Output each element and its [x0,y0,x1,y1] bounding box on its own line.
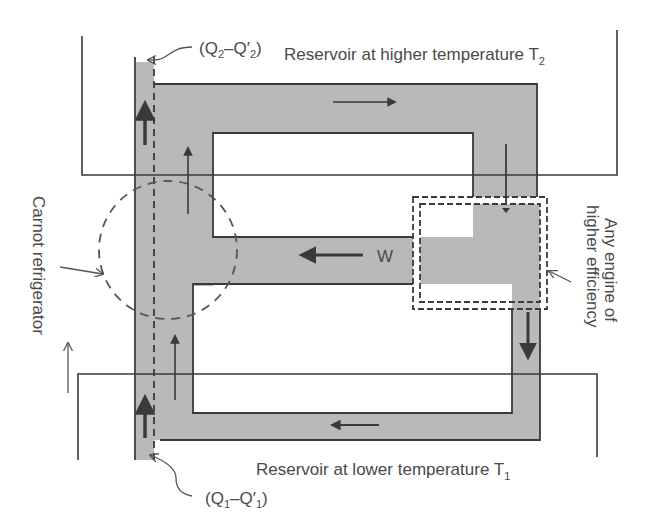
hot-reservoir-label: Reservoir at higher temperature T2 [284,45,545,67]
q1-leader [150,455,192,496]
engine-label-line1: Any engine of [601,218,620,322]
carnot-leader [60,267,103,274]
q2-label: (Q2–Q′2) [199,39,262,60]
engine-leader [549,271,571,282]
q1-label: (Q1–Q′1) [205,489,268,510]
engine-label-line2: higher efficiency [583,205,602,328]
work-label: W [377,247,393,266]
carnot-engine-refrigerator-diagram: (Q2–Q′2) Reservoir at higher temperature… [0,0,654,532]
cold-reservoir-label: Reservoir at lower temperature T1 [256,460,510,482]
carnot-refrigerator-label: Carnot refrigerator [29,196,48,335]
